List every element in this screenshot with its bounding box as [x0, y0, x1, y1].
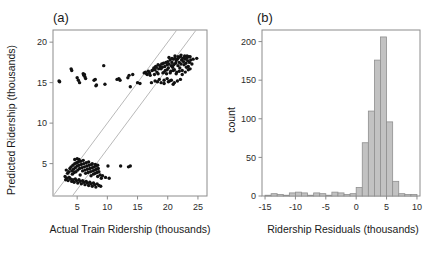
- scatter-point: [84, 77, 87, 80]
- scatter-point: [171, 83, 174, 86]
- panel-a-y-tick-label: 10: [37, 118, 47, 128]
- scatter-point: [165, 68, 168, 71]
- scatter-point: [167, 56, 170, 59]
- histogram-bar: [283, 195, 289, 196]
- histogram-bar: [374, 60, 380, 196]
- histogram-bars: [265, 37, 417, 196]
- histogram-bar: [362, 143, 368, 196]
- scatter-point: [96, 164, 99, 167]
- scatter-point: [101, 174, 104, 177]
- histogram-bar: [271, 194, 277, 196]
- panel-a-x-tick-label: 5: [75, 202, 80, 212]
- scatter-point: [78, 81, 81, 84]
- scatter-point: [99, 185, 102, 188]
- panel-a-svg: (a) 5101520255101520 Actual Train Riders…: [0, 0, 221, 256]
- scatter-point: [73, 158, 76, 161]
- panel-b-x-tick-label: -10: [289, 202, 302, 212]
- scatter-point: [176, 55, 179, 58]
- panel-b-y-tick-label: 0: [251, 191, 256, 201]
- scatter-point: [103, 83, 106, 86]
- histogram-bar: [381, 37, 387, 196]
- scatter-point: [170, 79, 173, 82]
- panel-b-y-tick-label: 200: [241, 37, 256, 47]
- panel-b-x-tick-label: -15: [259, 202, 272, 212]
- scatter-point: [162, 82, 165, 85]
- panel-b-plot-area: -15-10-50510050100150200: [241, 30, 422, 212]
- scatter-point: [138, 82, 141, 85]
- scatter-point: [102, 64, 105, 67]
- panel-b-x-tick-label: 10: [412, 202, 422, 212]
- scatter-point: [178, 70, 181, 73]
- panel-a-y-tick-label: 20: [37, 37, 47, 47]
- histogram-bar: [411, 194, 417, 196]
- scatter-point: [156, 72, 159, 75]
- scatter-point: [191, 57, 194, 60]
- scatter-point: [176, 79, 179, 82]
- histogram-bar: [277, 194, 283, 196]
- histogram-bar: [302, 193, 308, 196]
- scatter-point: [78, 173, 81, 176]
- histogram-bar: [289, 193, 295, 196]
- scatter-point: [158, 78, 161, 81]
- scatter-point: [58, 80, 61, 83]
- histogram-bar: [265, 195, 271, 196]
- scatter-point: [162, 70, 165, 73]
- panel-b-histogram: (b) -15-10-50510050100150200 Ridership R…: [221, 0, 442, 256]
- histogram-bar: [356, 188, 362, 196]
- histogram-bar: [350, 194, 356, 196]
- scatter-point: [106, 164, 109, 167]
- panel-b-x-tick-label: 5: [384, 202, 389, 212]
- histogram-bar: [295, 192, 301, 196]
- scatter-point: [175, 72, 178, 75]
- scatter-point: [131, 73, 134, 76]
- histogram-bar: [344, 194, 350, 196]
- scatter-point: [149, 74, 152, 77]
- scatter-point: [94, 185, 97, 188]
- scatter-point: [187, 68, 190, 71]
- panel-a-data-layer: [53, 30, 198, 196]
- scatter-point: [195, 57, 198, 60]
- scatter-point: [173, 54, 176, 57]
- scatter-point: [184, 70, 187, 73]
- histogram-bar: [314, 193, 320, 196]
- panel-b-label: (b): [257, 10, 273, 25]
- histogram-bar: [338, 193, 344, 196]
- scatter-point: [182, 56, 185, 59]
- histogram-bar: [387, 122, 393, 196]
- panel-a-x-tick-label: 10: [102, 202, 112, 212]
- histogram-bar: [368, 111, 374, 196]
- scatter-point: [159, 81, 162, 84]
- panel-b-y-tick-label: 150: [241, 75, 256, 85]
- panel-a-y-axis-title: Predicted Ridership (thousands): [5, 45, 17, 195]
- panel-a-y-tick-label: 5: [42, 159, 47, 169]
- scatter-point: [107, 176, 110, 179]
- panel-b-x-axis-title: Ridership Residuals (thousands): [267, 223, 419, 235]
- scatter-point: [179, 62, 182, 65]
- scatter-point: [77, 158, 80, 161]
- histogram-bar: [405, 194, 411, 196]
- panel-b-svg: (b) -15-10-50510050100150200 Ridership R…: [221, 0, 442, 256]
- scatter-point: [167, 80, 170, 83]
- scatter-point: [97, 167, 100, 170]
- scatter-point: [179, 78, 182, 81]
- histogram-bar: [332, 192, 338, 196]
- panel-b-frame: [262, 30, 420, 196]
- scatter-point: [119, 164, 122, 167]
- panel-a-scatter: (a) 5101520255101520 Actual Train Riders…: [0, 0, 221, 256]
- histogram-bar: [308, 195, 314, 196]
- scatter-point: [153, 73, 156, 76]
- panel-a-plot-area: 5101520255101520: [37, 30, 207, 212]
- histogram-bar: [320, 194, 326, 196]
- panel-a-x-tick-label: 20: [163, 202, 173, 212]
- scatter-point: [127, 74, 130, 77]
- histogram-bar: [326, 195, 332, 196]
- scatter-point: [181, 69, 184, 72]
- panel-a-y-tick-label: 15: [37, 78, 47, 88]
- scatter-point: [95, 83, 98, 86]
- panel-b-y-tick-label: 50: [246, 153, 256, 163]
- panel-b-y-axis-title: count: [225, 107, 237, 133]
- scatter-point: [104, 176, 107, 179]
- scatter-point: [162, 79, 165, 82]
- scatter-point: [178, 66, 181, 69]
- scatter-point: [70, 69, 73, 72]
